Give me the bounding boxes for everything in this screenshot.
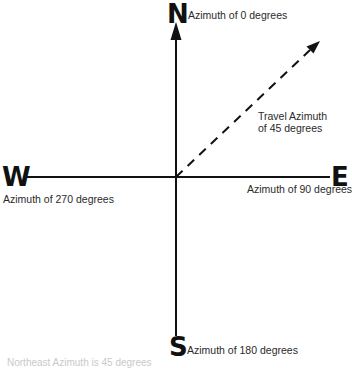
travel-azimuth-label: Travel Azimuth of 45 degrees: [258, 110, 327, 134]
travel-azimuth-label-line1: Travel Azimuth: [258, 110, 327, 122]
north-azimuth-label: Azimuth of 0 degrees: [188, 9, 287, 21]
south-azimuth-label: Azimuth of 180 degrees: [187, 344, 298, 356]
east-azimuth-label: Azimuth of 90 degrees: [247, 183, 352, 195]
figure-caption: Northeast Azimuth is 45 degrees: [7, 357, 152, 368]
travel-azimuth-label-line2: of 45 degrees: [258, 122, 327, 134]
north-letter: N: [167, 1, 189, 27]
south-letter: S: [169, 334, 188, 360]
west-letter: W: [2, 164, 31, 190]
west-azimuth-label: Azimuth of 270 degrees: [3, 193, 114, 205]
